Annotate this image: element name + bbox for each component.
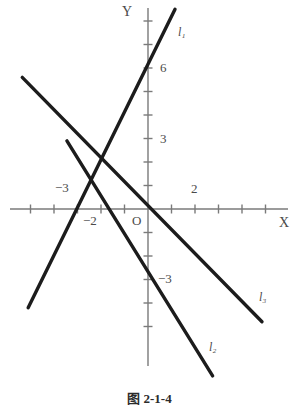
x-axis-label: X bbox=[279, 216, 289, 230]
coordinate-plot bbox=[0, 0, 299, 406]
x-tick-label-neg3: −3 bbox=[55, 181, 69, 194]
origin-label: O bbox=[132, 214, 141, 227]
line-l2 bbox=[67, 141, 213, 376]
y-tick-label-3: 3 bbox=[160, 132, 167, 145]
y-axis-label: Y bbox=[122, 5, 132, 19]
y-tick-label-6: 6 bbox=[160, 61, 167, 74]
figure-container: Y X O 6 3 −3 −3 −2 2 l₁ l₂ l₃ 图 2-1-4 bbox=[0, 0, 299, 406]
x-tick-label-2: 2 bbox=[191, 182, 198, 195]
figure-caption: 图 2-1-4 bbox=[0, 388, 299, 406]
y-tick-label-neg3: −3 bbox=[158, 272, 172, 285]
line-label-l3: l₃ bbox=[259, 291, 267, 303]
line-label-l1: l₁ bbox=[178, 26, 186, 38]
x-tick-label-neg2: −2 bbox=[83, 214, 97, 227]
line-label-l2: l₂ bbox=[209, 341, 217, 353]
line-l3 bbox=[22, 77, 262, 321]
